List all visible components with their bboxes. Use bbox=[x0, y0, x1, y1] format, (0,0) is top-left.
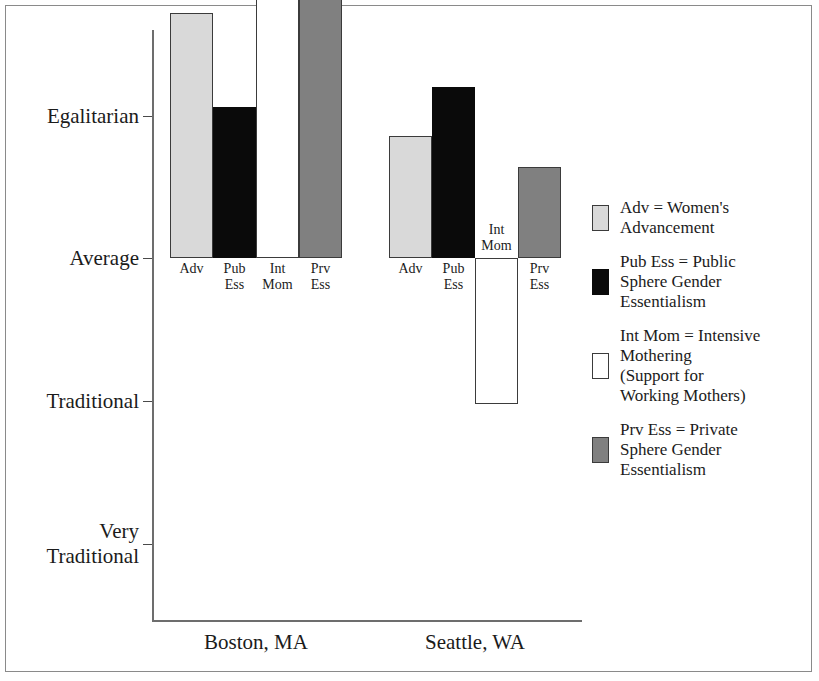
plot-area: Very EgalitarianEgalitarianAverageTradit… bbox=[152, 30, 582, 622]
bar-boston-adv bbox=[170, 13, 213, 258]
legend-adv: Adv = Women's Advancement bbox=[592, 198, 729, 238]
group-label-seattle: Seattle, WA bbox=[359, 630, 591, 654]
y-tick-label-egalitarian: Egalitarian bbox=[47, 103, 139, 128]
y-tick-very-traditional bbox=[143, 544, 152, 545]
bar-boston-intmom bbox=[256, 0, 299, 258]
bar-label-seattle-adv: Adv bbox=[389, 261, 432, 277]
chart-figure: Very EgalitarianEgalitarianAverageTradit… bbox=[0, 0, 819, 681]
bar-label-seattle-prvess: Prv Ess bbox=[518, 261, 561, 293]
bar-seattle-pubess bbox=[432, 87, 475, 258]
legend-prvess-label: Prv Ess = Private Sphere Gender Essentia… bbox=[620, 420, 738, 480]
y-tick-traditional bbox=[143, 401, 152, 402]
bar-label-boston-prvess: Prv Ess bbox=[299, 261, 342, 293]
bar-label-boston-pubess: Pub Ess bbox=[213, 261, 256, 293]
group-label-boston: Boston, MA bbox=[140, 630, 372, 654]
y-tick-label-very-traditional: Very Traditional bbox=[46, 519, 139, 569]
bar-label-seattle-pubess: Pub Ess bbox=[432, 261, 475, 293]
legend-intmom: Int Mom = Intensive Mothering (Support f… bbox=[592, 326, 760, 406]
legend-pubess: Pub Ess = Public Sphere Gender Essential… bbox=[592, 252, 736, 312]
y-tick-label-traditional: Traditional bbox=[46, 388, 139, 413]
legend-intmom-swatch bbox=[592, 353, 609, 379]
bar-boston-pubess bbox=[213, 107, 256, 258]
bar-seattle-prvess bbox=[518, 167, 561, 258]
legend-pubess-swatch bbox=[592, 269, 609, 295]
y-axis-line bbox=[152, 30, 154, 621]
legend-adv-swatch bbox=[592, 205, 609, 231]
x-axis-line bbox=[152, 620, 582, 622]
legend-pubess-label: Pub Ess = Public Sphere Gender Essential… bbox=[620, 252, 736, 312]
bar-label-boston-intmom: Int Mom bbox=[256, 261, 299, 293]
y-tick-label-average: Average bbox=[69, 246, 139, 271]
bar-label-boston-adv: Adv bbox=[170, 261, 213, 277]
legend-adv-label: Adv = Women's Advancement bbox=[620, 198, 729, 238]
bar-label-seattle-intmom: Int Mom bbox=[475, 222, 518, 254]
legend-prvess-swatch bbox=[592, 437, 609, 463]
bar-boston-prvess bbox=[299, 0, 342, 258]
y-tick-average bbox=[143, 258, 152, 259]
bar-seattle-intmom bbox=[475, 258, 518, 404]
bar-seattle-adv bbox=[389, 136, 432, 259]
legend-prvess: Prv Ess = Private Sphere Gender Essentia… bbox=[592, 420, 738, 480]
legend-intmom-label: Int Mom = Intensive Mothering (Support f… bbox=[620, 326, 760, 406]
y-tick-egalitarian bbox=[143, 116, 152, 117]
